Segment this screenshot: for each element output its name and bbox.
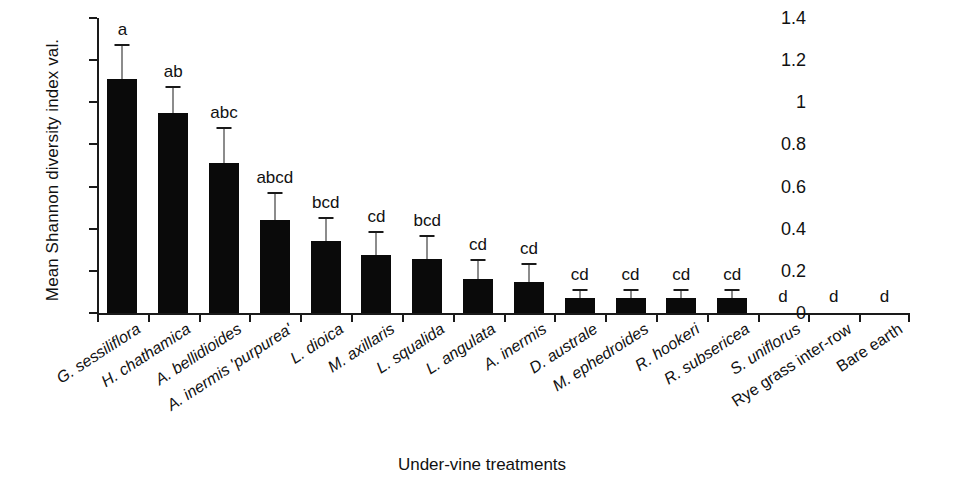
significance-letter: bcd	[312, 193, 339, 213]
x-tick	[808, 313, 810, 322]
significance-letter: cd	[367, 207, 385, 227]
x-tick	[199, 313, 201, 322]
error-bar	[732, 291, 733, 298]
x-tick	[249, 313, 251, 322]
x-tick	[758, 313, 760, 322]
bar[interactable]	[717, 298, 747, 313]
error-bar-cap	[471, 259, 486, 261]
significance-letter: cd	[520, 239, 538, 259]
x-tick	[707, 313, 709, 322]
x-tick	[97, 313, 99, 322]
bar-group[interactable]: a	[97, 18, 148, 313]
x-tick	[554, 313, 556, 322]
bar-group[interactable]: cd	[707, 18, 758, 313]
plot-area: 00.20.40.60.811.21.4aG. sessilifloraabH.…	[97, 18, 910, 313]
error-bar	[630, 291, 631, 298]
error-bar-cap	[623, 289, 638, 291]
x-tick	[402, 313, 404, 322]
error-bar-cap	[217, 127, 232, 129]
x-axis-title: Under-vine treatments	[0, 455, 964, 475]
y-tick	[89, 59, 97, 61]
bar-group[interactable]: cd	[605, 18, 656, 313]
bar[interactable]	[514, 282, 544, 313]
bar[interactable]	[412, 259, 442, 313]
y-tick	[89, 101, 97, 103]
significance-letter: d	[778, 287, 787, 307]
significance-letter: a	[118, 20, 127, 40]
significance-letter: bcd	[414, 211, 441, 231]
y-tick	[89, 143, 97, 145]
error-bar	[274, 194, 275, 220]
y-tick	[89, 270, 97, 272]
bar[interactable]	[361, 255, 391, 313]
bar-group[interactable]: cd	[453, 18, 504, 313]
significance-letter: cd	[723, 265, 741, 285]
y-tick	[89, 186, 97, 188]
significance-letter: cd	[469, 235, 487, 255]
bar[interactable]	[158, 113, 188, 313]
x-tick	[453, 313, 455, 322]
bar[interactable]	[565, 298, 595, 313]
bar[interactable]	[107, 79, 137, 313]
significance-letter: ab	[164, 62, 183, 82]
shannon-diversity-bar-chart: Mean Shannon diversity index val. 00.20.…	[0, 0, 964, 497]
significance-letter: cd	[571, 265, 589, 285]
error-bar-cap	[420, 235, 435, 237]
error-bar	[528, 265, 529, 283]
x-tick	[148, 313, 150, 322]
bar-group[interactable]: d	[859, 18, 910, 313]
error-bar	[681, 291, 682, 298]
error-bar-cap	[115, 44, 130, 46]
x-tick	[504, 313, 506, 322]
bar-group[interactable]: abcd	[249, 18, 300, 313]
bar-group[interactable]: bcd	[300, 18, 351, 313]
y-axis-title: Mean Shannon diversity index val.	[43, 5, 63, 335]
bar[interactable]	[666, 298, 696, 313]
bar[interactable]	[463, 279, 493, 313]
bar[interactable]	[209, 163, 239, 313]
x-tick	[605, 313, 607, 322]
x-tick	[300, 313, 302, 322]
bar[interactable]	[311, 241, 341, 313]
bar-group[interactable]: cd	[351, 18, 402, 313]
significance-letter: cd	[672, 265, 690, 285]
x-tick	[908, 313, 910, 322]
x-tick	[351, 313, 353, 322]
error-bar-cap	[674, 289, 689, 291]
bar-group[interactable]: ab	[148, 18, 199, 313]
error-bar-cap	[521, 263, 536, 265]
x-tick	[859, 313, 861, 322]
error-bar	[427, 237, 428, 259]
y-tick	[89, 312, 97, 314]
bar-group[interactable]: cd	[504, 18, 555, 313]
error-bar	[224, 129, 225, 164]
error-bar-cap	[166, 86, 181, 88]
bar-group[interactable]: cd	[554, 18, 605, 313]
bar-group[interactable]: d	[758, 18, 809, 313]
error-bar-cap	[725, 289, 740, 291]
bar-group[interactable]: bcd	[402, 18, 453, 313]
error-bar	[122, 46, 123, 79]
significance-letter: abcd	[256, 168, 293, 188]
significance-letter: abc	[210, 103, 237, 123]
y-tick	[89, 17, 97, 19]
error-bar-cap	[318, 217, 333, 219]
error-bar-cap	[267, 192, 282, 194]
y-tick	[89, 228, 97, 230]
significance-letter: d	[829, 287, 838, 307]
error-bar	[579, 291, 580, 298]
bar-group[interactable]: abc	[199, 18, 250, 313]
bar-group[interactable]: d	[808, 18, 859, 313]
error-bar-cap	[572, 289, 587, 291]
error-bar-cap	[369, 231, 384, 233]
significance-letter: d	[880, 287, 889, 307]
error-bar	[376, 233, 377, 255]
significance-letter: cd	[622, 265, 640, 285]
x-tick	[656, 313, 658, 322]
error-bar	[478, 261, 479, 279]
error-bar	[173, 88, 174, 113]
bar[interactable]	[616, 298, 646, 313]
bar[interactable]	[260, 220, 290, 313]
bar-group[interactable]: cd	[656, 18, 707, 313]
error-bar	[325, 219, 326, 241]
